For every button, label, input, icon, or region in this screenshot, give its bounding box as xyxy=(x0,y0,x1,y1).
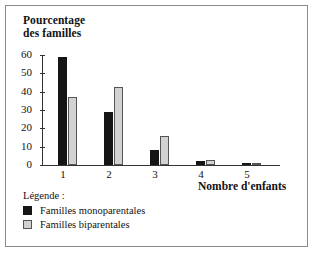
legend-swatch-light xyxy=(23,220,32,229)
x-axis-line xyxy=(42,165,280,166)
y-tick-label: 50 xyxy=(12,66,32,78)
y-tick-mark xyxy=(40,165,45,166)
x-tick-label: 4 xyxy=(186,168,216,180)
bar xyxy=(150,150,159,165)
y-tick-mark xyxy=(40,55,45,56)
x-tick-label: 2 xyxy=(94,168,124,180)
bar xyxy=(58,57,67,165)
y-tick-mark xyxy=(40,92,45,93)
x-tick-label: 1 xyxy=(48,168,78,180)
y-tick-mark xyxy=(40,73,45,74)
legend-swatch-dark xyxy=(23,206,32,215)
legend-item-label: Familles monoparentales xyxy=(40,205,145,216)
bar xyxy=(114,87,123,165)
bar xyxy=(206,160,215,166)
bar-group xyxy=(234,55,274,165)
y-tick-label: 10 xyxy=(12,140,32,152)
legend-item: Familles biparentales xyxy=(23,219,145,230)
bar xyxy=(160,136,169,165)
y-tick-mark xyxy=(40,110,45,111)
legend-item-label: Familles biparentales xyxy=(40,219,130,230)
x-tick-label: 3 xyxy=(140,168,170,180)
bar xyxy=(104,112,113,165)
y-tick-label: 0 xyxy=(12,158,32,170)
y-tick-label: 60 xyxy=(12,48,32,60)
y-tick-label: 20 xyxy=(12,121,32,133)
bar-group xyxy=(96,55,136,165)
x-tick-label: 5 xyxy=(232,168,262,180)
bar xyxy=(68,97,77,165)
bar xyxy=(196,161,205,165)
legend-title: Légende : xyxy=(23,190,145,201)
bar xyxy=(242,163,251,165)
x-axis-title: Nombre d'enfants xyxy=(198,180,286,192)
legend-item-list: Familles monoparentalesFamilles biparent… xyxy=(23,205,145,230)
y-tick-mark xyxy=(40,128,45,129)
bar xyxy=(252,163,261,165)
bar-group xyxy=(142,55,182,165)
y-tick-mark xyxy=(40,147,45,148)
legend: Légende : Familles monoparentalesFamille… xyxy=(23,190,145,230)
bar-group xyxy=(188,55,228,165)
legend-item: Familles monoparentales xyxy=(23,205,145,216)
y-tick-label: 30 xyxy=(12,103,32,115)
y-tick-label: 40 xyxy=(12,85,32,97)
bar-group xyxy=(50,55,90,165)
